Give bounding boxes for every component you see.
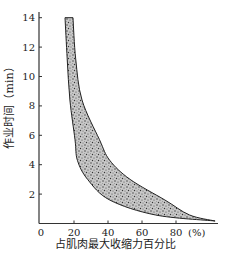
y-tick-label: 4 [29, 159, 35, 170]
y-tick-label: 6 [29, 130, 35, 141]
y-tick-label: 10 [22, 71, 35, 82]
y-tick-label: 14 [22, 12, 35, 23]
y-tick-label: 2 [29, 189, 35, 200]
y-tick-label: 12 [22, 42, 35, 53]
endurance-band [65, 18, 215, 221]
chart-plot: 2468101214 020406080 (%) [0, 0, 226, 258]
y-tick-label: 8 [29, 100, 35, 111]
x-axis-label: 占肌肉最大收缩力百分比 [40, 235, 190, 251]
y-axis-label: 作业时间（min） [0, 53, 16, 157]
x-unit-label: (%) [188, 227, 205, 238]
